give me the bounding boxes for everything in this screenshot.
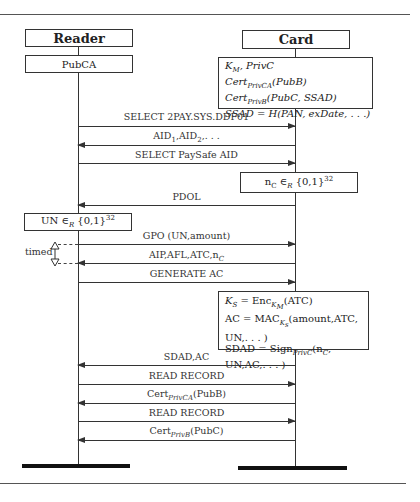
reader-nonce-text: UN ∈R {0,1}32 (41, 214, 115, 229)
card-nonce-text: nC ∈R {0,1}32 (265, 175, 333, 190)
message-label-aid-list: AID1,AID2,. . . (78, 130, 295, 144)
card-lifeline-end-bar (238, 466, 347, 470)
arrowhead-right-icon (288, 241, 296, 247)
timed-start-dash (58, 244, 78, 246)
reader-state-box: PubCA (25, 55, 133, 73)
message-label-aip-afl-atc: AIP,AFL,ATC,nC (78, 249, 295, 263)
message-label-sdad-ac: SDAD,AC (78, 351, 295, 362)
card-nonce-box: nC ∈R {0,1}32 (240, 172, 358, 193)
card-state-box: KM, PrivC CertPrivCA(PubB) CertPrivB(Pub… (218, 57, 373, 109)
message-arrow-select-paysafe (78, 163, 295, 164)
arrowhead-left-icon (77, 202, 85, 208)
reader-nonce-box: UN ∈R {0,1}32 (24, 213, 132, 231)
reader-title: Reader (53, 31, 105, 46)
message-arrow-generate-ac (78, 282, 295, 283)
compute-ks: KS = EncKM(ATC) (225, 295, 362, 313)
arrowhead-left-icon (77, 400, 85, 406)
message-label-read-record-2: READ RECORD (78, 407, 295, 418)
card-state-cert-privb: CertPrivB(PubC, SSAD) (225, 92, 366, 108)
reader-participant-box: Reader (25, 29, 133, 47)
arrowhead-left-icon (77, 437, 85, 443)
reader-lifeline-end-bar (22, 464, 130, 468)
arrowhead-right-icon (288, 279, 296, 285)
arrowhead-right-icon (288, 381, 296, 387)
arrowhead-right-icon (288, 418, 296, 424)
arrowhead-left-icon (77, 362, 85, 368)
timed-label: timed (25, 246, 53, 257)
message-label-read-record-1: READ RECORD (78, 370, 295, 381)
message-arrow-cert-privb (78, 440, 295, 441)
card-compute-box: KS = EncKM(ATC) AC = MACKs(amount,ATC, U… (218, 291, 369, 350)
message-arrow-pdol (78, 205, 295, 206)
message-arrow-gpo (78, 244, 295, 245)
message-label-generate-ac: GENERATE AC (78, 268, 295, 279)
message-arrow-read-record-1 (78, 384, 295, 385)
card-state-cert-privca: CertPrivCA(PubB) (225, 76, 366, 92)
timed-end-dash (58, 263, 78, 265)
top-rule (0, 14, 410, 15)
message-label-cert-privca: CertPrivCA(PubB) (78, 388, 295, 402)
message-label-select-paysafe: SELECT PaySafe AID (78, 149, 295, 160)
arrowhead-right-icon (288, 160, 296, 166)
card-state-keys: KM, PrivC (225, 60, 366, 76)
message-label-pdol: PDOL (78, 191, 295, 202)
bottom-rule (0, 483, 406, 484)
message-arrow-cert-privca (78, 403, 295, 404)
compute-ac-cont: UN,. . . ) (225, 332, 362, 343)
arrowhead-left-icon (77, 260, 85, 266)
message-arrow-sdad-ac (78, 365, 295, 366)
message-label-gpo: GPO (UN,amount) (78, 230, 295, 241)
message-label-select-2pay: SELECT 2PAY.SYS.DDF01 (78, 111, 295, 122)
message-arrow-aip-afl-atc (78, 263, 295, 264)
reader-state-pubca: PubCA (62, 59, 96, 70)
arrowhead-right-icon (288, 123, 296, 129)
message-arrow-aid-list (78, 145, 295, 146)
arrowhead-left-icon (77, 142, 85, 148)
message-arrow-read-record-2 (78, 421, 295, 422)
card-title: Card (279, 32, 314, 47)
timed-double-arrow-icon (50, 241, 60, 267)
card-participant-box: Card (242, 30, 350, 49)
message-label-cert-privb: CertPrivB(PubC) (78, 425, 295, 439)
message-arrow-select-2pay (78, 126, 295, 127)
compute-ac: AC = MACKs(amount,ATC, (225, 313, 362, 331)
